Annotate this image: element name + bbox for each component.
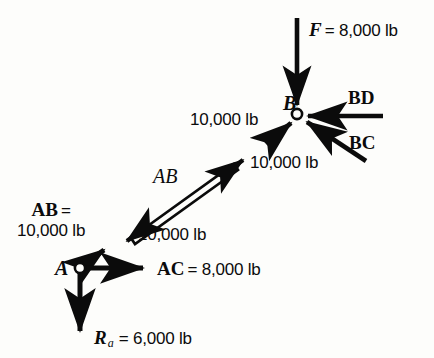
label-Ra-symbol: R bbox=[94, 328, 107, 347]
label-AB-magnitude: 10,000 lb bbox=[17, 222, 85, 239]
label-AB-force-at-A: AB = 10,000 lb bbox=[17, 200, 85, 239]
diagram-canvas bbox=[0, 0, 434, 358]
label-AB-force-at-A-line1: AB = bbox=[32, 200, 71, 219]
label-AB-equals: = bbox=[61, 202, 71, 219]
label-AC-symbol: AC bbox=[157, 259, 184, 278]
label-AB-symbol: AB bbox=[32, 200, 58, 219]
label-joint-B: B bbox=[283, 93, 296, 113]
free-body-diagram: F = 8,000 lb BD BC 10,000 lb B AB 10,000… bbox=[0, 0, 434, 358]
label-member-BD: BD bbox=[348, 88, 374, 107]
label-member-AB: AB bbox=[153, 166, 177, 186]
label-AC-value: = 8,000 lb bbox=[187, 261, 260, 278]
label-force-F: F = 8,000 lb bbox=[309, 20, 398, 39]
label-force-AC: AC = 8,000 lb bbox=[157, 259, 261, 278]
label-member-AB-upper-magnitude: 10,000 lb bbox=[250, 154, 318, 171]
label-Ra-subscript: a bbox=[108, 337, 114, 349]
label-member-AB-lower-magnitude: 10,000 lb bbox=[138, 226, 206, 243]
label-BA-magnitude: 10,000 lb bbox=[190, 111, 258, 128]
force-arrow-BA bbox=[266, 123, 291, 144]
label-Ra-value: = 6,000 lb bbox=[119, 330, 192, 347]
force-arrow-AB-at-A bbox=[82, 250, 104, 266]
joint-a-force-group bbox=[75, 250, 143, 331]
label-reaction-Ra: R a = 6,000 lb bbox=[94, 328, 192, 347]
label-joint-A: A bbox=[55, 258, 68, 278]
joint-node-A bbox=[75, 263, 85, 273]
label-force-F-value: = 8,000 lb bbox=[325, 22, 398, 39]
label-force-F-symbol: F bbox=[309, 20, 322, 39]
label-member-BC: BC bbox=[349, 133, 375, 152]
